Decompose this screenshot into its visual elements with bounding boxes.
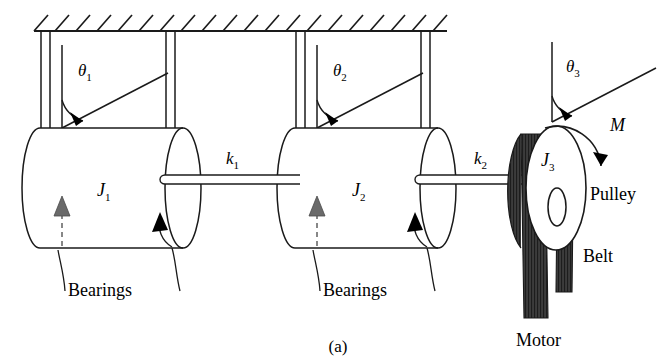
figure-caption: (a) — [329, 337, 348, 356]
theta3-annotation — [552, 42, 656, 122]
motor-label: Motor — [516, 330, 561, 350]
fixed-support-ceiling — [34, 15, 447, 31]
torsional-system-figure: θ1 θ2 θ3 J1 J2 — [0, 0, 672, 361]
shaft-k1 — [160, 175, 300, 184]
stiffness-k1-label: k1 — [226, 149, 239, 171]
rotor-disk-J1 — [22, 128, 201, 248]
bearings-label-left: Bearings — [68, 280, 132, 300]
theta2-label: θ2 — [333, 61, 347, 83]
rotor-disk-J2 — [277, 128, 456, 248]
stiffness-k2-label: k2 — [474, 149, 487, 171]
theta1-label: θ1 — [78, 61, 92, 83]
moment-M-label: M — [609, 115, 626, 135]
theta2-annotation — [317, 45, 423, 128]
belt-label: Belt — [583, 246, 613, 266]
theta1-annotation — [62, 45, 168, 128]
bearing-support-column-2-left — [296, 31, 305, 128]
pulley-label: Pulley — [590, 184, 636, 204]
bearings-label-right: Bearings — [323, 280, 387, 300]
pulley-J3 — [526, 126, 586, 250]
theta3-label: θ3 — [566, 57, 580, 79]
bearing-support-column-1-left — [41, 31, 50, 128]
